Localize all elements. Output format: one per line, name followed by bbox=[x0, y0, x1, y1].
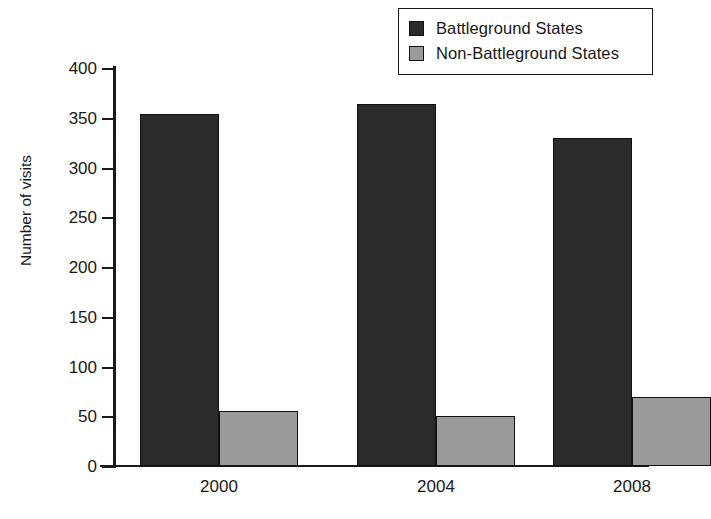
y-tick-label: 350 bbox=[69, 109, 97, 126]
bar-battleground-2008 bbox=[553, 138, 632, 466]
x-tick-label-2004: 2004 bbox=[417, 478, 455, 495]
chart-legend: Battleground States Non-Battleground Sta… bbox=[398, 8, 653, 75]
legend-item-non-battleground-states: Non-Battleground States bbox=[409, 41, 642, 66]
y-axis-title: Number of visits bbox=[18, 155, 34, 266]
plot-area: 400 350 300 250 200 150 100 50 bbox=[113, 68, 645, 466]
legend-item-label: Battleground States bbox=[436, 20, 583, 37]
y-tick-label: 250 bbox=[69, 209, 97, 226]
y-tick-mark bbox=[102, 416, 113, 418]
bar-battleground-2000 bbox=[140, 114, 219, 466]
y-tick-label: 150 bbox=[69, 308, 97, 325]
y-tick-mark bbox=[102, 367, 113, 369]
y-tick-label: 0 bbox=[88, 458, 97, 475]
y-tick-mark bbox=[102, 168, 113, 170]
x-tick-label-2000: 2000 bbox=[200, 478, 238, 495]
y-tick-mark bbox=[102, 267, 113, 269]
y-tick-label: 50 bbox=[78, 408, 97, 425]
bar-non-battleground-2000 bbox=[219, 411, 298, 466]
y-tick-mark bbox=[102, 466, 113, 468]
legend-swatch-icon bbox=[409, 21, 424, 36]
bar-non-battleground-2008 bbox=[632, 397, 711, 466]
legend-item-label: Non-Battleground States bbox=[436, 45, 619, 62]
bar-battleground-2004 bbox=[357, 104, 436, 466]
y-tick-mark bbox=[102, 68, 113, 70]
legend-swatch-icon bbox=[409, 46, 424, 61]
y-tick-mark bbox=[102, 317, 113, 319]
x-tick-label-2008: 2008 bbox=[613, 478, 651, 495]
y-tick-mark bbox=[102, 217, 113, 219]
y-tick-label: 100 bbox=[69, 358, 97, 375]
y-tick-mark bbox=[102, 118, 113, 120]
bar-non-battleground-2004 bbox=[436, 416, 515, 466]
y-tick-label: 200 bbox=[69, 259, 97, 276]
y-tick-label: 400 bbox=[69, 60, 97, 77]
y-tick-label: 300 bbox=[69, 159, 97, 176]
legend-item-battleground-states: Battleground States bbox=[409, 16, 642, 41]
